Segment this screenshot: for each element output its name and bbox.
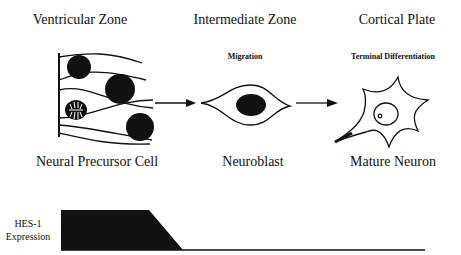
cell-label-neural-precursor: Neural Precursor Cell <box>36 154 158 170</box>
hes1-expression-profile <box>61 210 425 250</box>
arrow-neuroblast-to-neuron <box>296 99 338 107</box>
neural-precursor-cells-illustration <box>59 53 154 144</box>
arrow-precursor-to-neuroblast <box>155 99 196 107</box>
hes1-label: HES-1 <box>0 217 56 230</box>
neuroblast-illustration <box>201 85 290 125</box>
cell-label-mature-neuron: Mature Neuron <box>350 154 436 170</box>
mature-neuron-illustration <box>335 77 428 147</box>
diagram-canvas <box>0 0 461 255</box>
hes1-expression-label: HES-1 Expression <box>0 217 56 243</box>
expression-label: Expression <box>0 230 56 243</box>
cell-label-neuroblast: Neuroblast <box>222 154 283 170</box>
